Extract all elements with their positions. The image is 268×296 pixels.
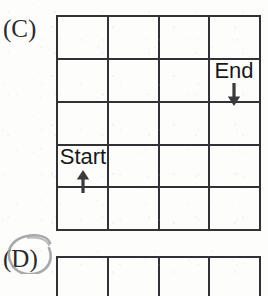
arrow-up-icon bbox=[75, 169, 91, 193]
marker-start-label: Start bbox=[59, 146, 107, 168]
panel-label-d: (D) bbox=[3, 246, 38, 271]
arrow-down-icon bbox=[226, 83, 242, 107]
grid-c-vline-3 bbox=[208, 17, 210, 229]
grid-panel-c bbox=[56, 15, 261, 231]
marker-end-label: End bbox=[213, 60, 254, 82]
grid-panel-d bbox=[56, 256, 261, 296]
grid-d-vline-2 bbox=[158, 258, 160, 296]
marker-end: End bbox=[209, 60, 259, 107]
grid-c-vline-1 bbox=[107, 17, 109, 229]
marker-start: Start bbox=[58, 146, 108, 193]
grid-d-vline-3 bbox=[208, 258, 210, 296]
grid-c-vline-2 bbox=[158, 17, 160, 229]
grid-d-vline-1 bbox=[107, 258, 109, 296]
panel-label-c: (C) bbox=[3, 16, 36, 41]
grid-c-lines bbox=[58, 17, 259, 229]
grid-d-lines bbox=[58, 258, 259, 296]
